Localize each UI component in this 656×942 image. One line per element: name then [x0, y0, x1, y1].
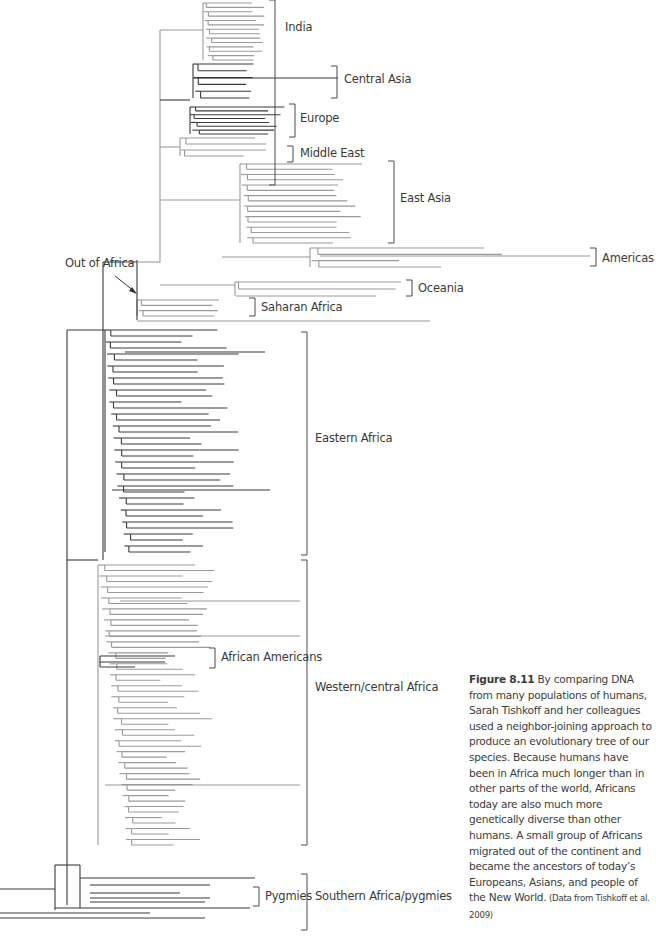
bracket-east-asia	[388, 161, 394, 243]
out-of-africa-label: Out of Africa	[65, 256, 134, 270]
bracket-india	[269, 0, 275, 185]
clade-label-middle-east: Middle East	[300, 146, 364, 160]
figure-number: Figure 8.11	[469, 673, 534, 685]
bracket-african-americans	[209, 648, 215, 668]
bracket-eastern-africa	[301, 332, 307, 555]
clade-label-india: India	[285, 20, 312, 34]
bracket-americas	[590, 248, 596, 266]
bracket-western-central-africa	[301, 560, 307, 845]
bracket-middle-east	[287, 146, 293, 162]
clade-label-southern-africa-pygmies: Southern Africa/pygmies	[315, 889, 452, 903]
clade-label-oceania: Oceania	[418, 281, 464, 295]
bracket-saharan-africa	[249, 298, 255, 316]
clade-label-saharan-africa: Saharan Africa	[261, 300, 342, 314]
out-of-africa-arrow	[115, 276, 137, 294]
clade-label-eastern-africa: Eastern Africa	[315, 431, 392, 445]
clade-label-central-asia: Central Asia	[344, 72, 411, 86]
clade-label-pygmies: Pygmies	[265, 889, 312, 903]
bracket-central-asia	[331, 66, 337, 98]
bracket-europe	[289, 104, 295, 137]
clade-label-western-central-africa: Western/central Africa	[315, 680, 438, 694]
clade-label-east-asia: East Asia	[400, 191, 451, 205]
bracket-pygmies	[253, 887, 259, 906]
caption-text: By comparing DNA from many populations o…	[469, 673, 652, 903]
bracket-oceania	[406, 280, 412, 296]
figure-caption: Figure 8.11 By comparing DNA from many p…	[469, 672, 655, 924]
clade-label-americas: Americas	[602, 251, 654, 265]
clade-label-african-americans: African Americans	[221, 650, 322, 664]
clade-label-europe: Europe	[300, 111, 339, 125]
